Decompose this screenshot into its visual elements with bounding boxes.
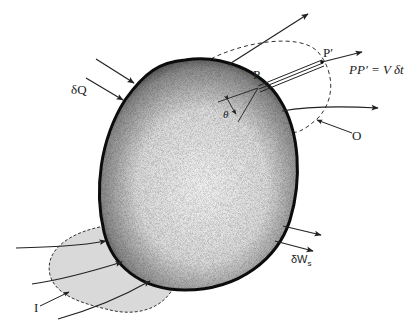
streamline-3 xyxy=(260,66,324,92)
angle-label: θ xyxy=(223,109,228,120)
heat-label: δQ xyxy=(71,83,87,96)
inlet-pointer xyxy=(40,292,69,306)
displacement-label: PP′ = V δt xyxy=(349,63,404,76)
heat-arrow-1 xyxy=(96,59,134,83)
streamline-1 xyxy=(258,60,322,86)
heat-arrow-2 xyxy=(86,78,123,100)
work-label-main: δW xyxy=(291,253,308,265)
outlet-pointer xyxy=(317,120,352,133)
control-volume-diagram: δQ P P′ PP′ = V δt θ O I δWs xyxy=(0,0,415,332)
work-label: δWs xyxy=(291,254,312,268)
inlet-label: I xyxy=(34,301,38,314)
streamline-2 xyxy=(259,63,323,89)
work-label-sub: s xyxy=(308,259,312,268)
outlet-label: O xyxy=(352,129,361,142)
point-p-prime-label: P′ xyxy=(323,46,333,59)
outflow-arrow-top xyxy=(228,14,308,65)
work-arrow-2 xyxy=(275,241,313,251)
point-p-label: P xyxy=(253,68,260,81)
outflow-arrow-right xyxy=(282,107,378,111)
diagram-canvas xyxy=(0,0,415,332)
work-arrow-1 xyxy=(283,226,321,235)
